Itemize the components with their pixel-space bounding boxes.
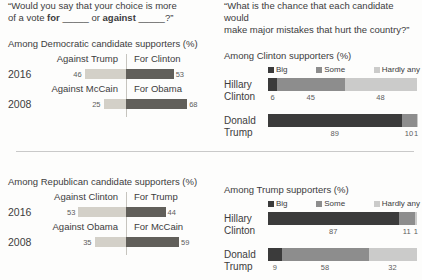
bar-segment-big (268, 78, 277, 91)
for-bar (126, 237, 179, 247)
bar-pair-headers: Against ClintonFor Trump (8, 191, 212, 202)
legend-label: Hardly any (382, 65, 420, 74)
democratic-paired-bar-chart: Against TrumpFor Clinton20164653Against … (8, 53, 212, 117)
legend-swatch (316, 201, 322, 207)
against-bar (78, 207, 126, 217)
bar-pair-headers: Against ObamaFor McCain (8, 221, 212, 232)
for-bar (126, 69, 174, 79)
category-label: Hillary Clinton (224, 212, 268, 237)
year-label: 2008 (8, 236, 48, 248)
column-header-for: For Trump (126, 191, 212, 202)
survey-question-major-mistakes: “What is the chance that each candidate … (224, 0, 420, 36)
for-bar-zone: 53 (126, 69, 212, 79)
bar-segment-hardly-any (345, 78, 417, 91)
value-label: 11 (403, 227, 411, 236)
legend-item-big: Big (268, 65, 288, 74)
bar-segment-some (399, 212, 416, 225)
stacked-bar-row: Hillary Clinton87111 (224, 212, 420, 237)
year-label: 2008 (8, 98, 48, 110)
bar-segment-hardly-any (415, 212, 417, 225)
bar-pair-row: 20083559 (8, 235, 212, 249)
stacked-bar-wrap: 95832 (268, 248, 418, 273)
bar-pair-row: 20165344 (8, 205, 212, 219)
question-line-2: of a vote for _____ or against _____?” (8, 12, 212, 24)
legend: BigSomeHardly any (268, 65, 420, 74)
stacked-value-labels: 87111 (268, 227, 418, 237)
year-label: 2016 (8, 68, 48, 80)
value-label: 87 (329, 227, 337, 236)
column-header-for: For McCain (126, 221, 212, 232)
legend-item-hardly-any: Hardly any (374, 65, 420, 74)
column-header-against: Against Clinton (8, 191, 126, 202)
value-label: 45 (307, 93, 315, 102)
section-divider (16, 151, 414, 152)
stacked-bar-wrap: 64548 (268, 78, 418, 103)
legend-label: Big (276, 65, 288, 74)
bar-pair-headers: Against McCainFor Obama (8, 83, 212, 94)
stacked-bar (268, 248, 418, 261)
legend-label: Big (276, 199, 288, 208)
value-label: 25 (92, 100, 100, 109)
bar-segment-hardly-any (369, 248, 417, 261)
legend-label: Hardly any (382, 199, 420, 208)
panel-clinton-supporters: “What is the chance that each candidate … (224, 0, 420, 150)
value-label: 9 (273, 263, 277, 272)
panel-republican-supporters: Among Republican candidate supporters (%… (8, 176, 212, 255)
against-bar-zone: 46 (48, 69, 126, 79)
legend-swatch (268, 67, 274, 73)
column-header-for: For Obama (126, 83, 212, 94)
stacked-bar-wrap: 89101 (268, 114, 418, 139)
legend-item-hardly-any: Hardly any (374, 199, 420, 208)
stacked-value-labels: 64548 (268, 93, 418, 103)
legend-item-some: Some (316, 199, 345, 208)
bar-pair-row: 20164653 (8, 67, 212, 81)
category-label: Donald Trump (224, 114, 268, 139)
bar-segment-hardly-any (417, 114, 419, 127)
chart-title-republican: Among Republican candidate supporters (%… (8, 176, 212, 187)
value-label: 1 (414, 227, 418, 236)
category-label: Donald Trump (224, 248, 268, 273)
legend-label: Some (324, 65, 345, 74)
value-label: 1 (414, 129, 418, 138)
value-label: 53 (176, 70, 184, 79)
trump-supporters-stacked-bar-chart: BigSomeHardly anyHillary Clinton87111Don… (224, 199, 420, 273)
panel-democratic-supporters: “Would you say that your choice is more … (8, 0, 212, 117)
chart-title-trump-supporters: Among Trump supporters (%) (224, 184, 420, 195)
value-label: 44 (168, 208, 176, 217)
stacked-value-labels: 89101 (268, 129, 418, 139)
bar-segment-some (402, 114, 417, 127)
bar-pair-row: 20082568 (8, 97, 212, 111)
stacked-bar-row: Donald Trump95832 (224, 248, 420, 273)
question-line-1: “What is the chance that each candidate … (224, 0, 420, 24)
bar-segment-big (268, 248, 282, 261)
against-bar-zone: 25 (48, 99, 126, 109)
value-label: 46 (73, 70, 81, 79)
for-bar-zone: 44 (126, 207, 212, 217)
bar-segment-big (268, 114, 402, 127)
value-label: 53 (67, 208, 75, 217)
column-header-against: Against Obama (8, 221, 126, 232)
for-bar-zone: 59 (126, 237, 212, 247)
value-label: 35 (83, 238, 91, 247)
legend-swatch (374, 67, 380, 73)
stacked-bar-row: Hillary Clinton64548 (224, 78, 420, 103)
stacked-bar-wrap: 87111 (268, 212, 418, 237)
column-header-against: Against McCain (8, 83, 126, 94)
legend-swatch (316, 67, 322, 73)
for-bar (126, 99, 187, 109)
chart-title-clinton-supporters: Among Clinton supporters (%) (224, 50, 420, 61)
question-line-1: “Would you say that your choice is more (8, 0, 212, 12)
year-label: 2016 (8, 206, 48, 218)
value-label: 59 (181, 238, 189, 247)
value-label: 6 (270, 93, 274, 102)
value-label: 32 (388, 263, 396, 272)
category-label: Hillary Clinton (224, 78, 268, 103)
value-label: 48 (376, 93, 384, 102)
survey-question-vote-for-against: “Would you say that your choice is more … (8, 0, 212, 24)
legend-swatch (374, 201, 380, 207)
against-bar-zone: 35 (48, 237, 126, 247)
value-label: 10 (405, 129, 413, 138)
republican-paired-bar-chart: Against ClintonFor Trump20165344Against … (8, 191, 212, 255)
against-bar (85, 69, 126, 79)
legend-item-big: Big (268, 199, 288, 208)
